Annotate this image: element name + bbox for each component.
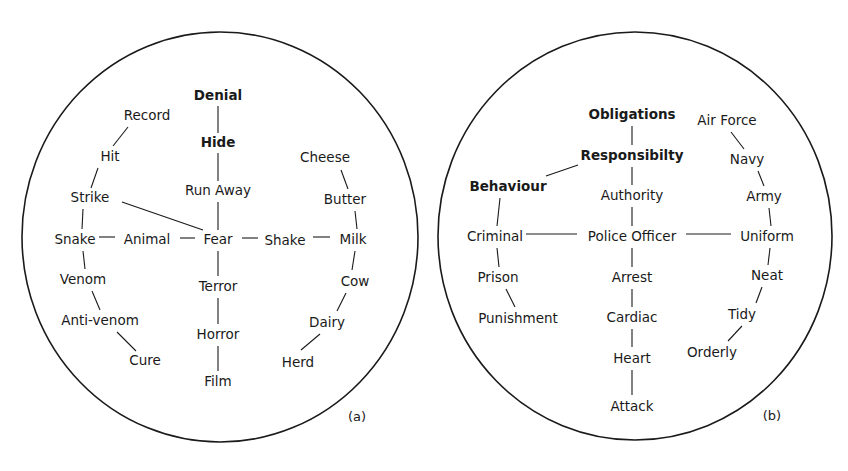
edge-cheese-butter [341, 170, 348, 189]
edge-hit-strike [91, 168, 98, 188]
node-punishment: Punishment [478, 310, 558, 326]
node-criminal: Criminal [467, 228, 523, 244]
node-tidy: Tidy [727, 306, 756, 322]
edge-tidy-orderly [728, 326, 742, 341]
node-cardiac: Cardiac [606, 309, 657, 325]
node-orderly: Orderly [687, 344, 737, 360]
node-terror: Terror [198, 278, 238, 294]
node-animal: Animal [124, 231, 171, 247]
node-authority: Authority [601, 187, 663, 203]
node-arrest: Arrest [612, 269, 652, 285]
edge-uniform-neat [768, 248, 770, 265]
edge-navy-army [758, 171, 764, 186]
edge-responsibilty-behaviour [546, 165, 578, 176]
node-army: Army [746, 188, 782, 204]
edge-strike-snake [82, 209, 83, 229]
edge-behaviour-criminal [497, 198, 500, 226]
node-behaviour: Behaviour [469, 178, 546, 194]
panel-b-nodes: ObligationsAir ForceResponsibiltyNavyBeh… [467, 106, 794, 414]
panel-b: ObligationsAir ForceResponsibiltyNavyBeh… [438, 32, 832, 440]
panel-b-label: (b) [763, 408, 781, 423]
node-hit: Hit [100, 148, 119, 164]
node-fear: Fear [203, 231, 233, 247]
edge-strike-fear [122, 202, 203, 230]
edge-milk-cow [352, 251, 355, 270]
semantic-network-figure: DenialRecordHideHitCheeseRun AwayStrikeB… [0, 0, 848, 471]
node-obligations: Obligations [588, 106, 675, 122]
node-uniform: Uniform [740, 228, 794, 244]
edge-snake-venom [83, 251, 85, 269]
node-denial: Denial [194, 87, 242, 103]
node-shake: Shake [264, 232, 305, 248]
node-anti-venom: Anti-venom [61, 312, 139, 328]
panel-a-nodes: DenialRecordHideHitCheeseRun AwayStrikeB… [54, 87, 369, 389]
edge-air-force-navy [731, 132, 744, 149]
node-record: Record [124, 107, 171, 123]
node-snake: Snake [54, 231, 95, 247]
node-air-force: Air Force [697, 112, 756, 128]
node-responsibilty: Responsibilty [581, 147, 684, 163]
edge-cow-dairy [337, 293, 346, 311]
node-film: Film [204, 373, 231, 389]
node-horror: Horror [197, 326, 240, 342]
node-cow: Cow [341, 273, 370, 289]
node-cheese: Cheese [300, 149, 350, 165]
panel-a: DenialRecordHideHitCheeseRun AwayStrikeB… [22, 32, 418, 442]
edge-venom-anti-venom [92, 291, 100, 310]
node-hide: Hide [201, 134, 236, 150]
edge-criminal-prison [497, 248, 499, 267]
node-herd: Herd [282, 354, 314, 370]
node-butter: Butter [324, 191, 367, 207]
edge-neat-tidy [756, 287, 762, 303]
node-cure: Cure [129, 352, 161, 368]
edge-army-uniform [769, 208, 771, 226]
panel-a-label: (a) [348, 409, 366, 424]
edge-anti-venom-cure [117, 332, 136, 351]
node-prison: Prison [477, 269, 518, 285]
node-run-away: Run Away [185, 182, 251, 198]
node-strike: Strike [71, 189, 110, 205]
node-dairy: Dairy [309, 314, 345, 330]
node-police-officer: Police Officer [588, 228, 677, 244]
node-venom: Venom [60, 271, 106, 287]
edge-prison-punishment [506, 289, 515, 307]
node-neat: Neat [751, 267, 783, 283]
node-milk: Milk [340, 231, 367, 247]
edge-dairy-herd [301, 334, 320, 350]
edge-butter-milk [355, 211, 357, 229]
edge-record-hit [113, 127, 128, 146]
node-attack: Attack [610, 398, 653, 414]
node-heart: Heart [613, 350, 651, 366]
node-navy: Navy [730, 151, 764, 167]
